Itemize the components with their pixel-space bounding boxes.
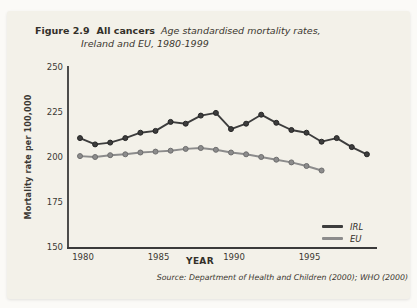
irl-data-point-marker (153, 128, 158, 133)
irl-data-point-marker (138, 130, 143, 135)
y-tick-label: 175 (47, 197, 63, 207)
eu-data-point-marker (244, 152, 249, 157)
eu-data-point-marker (78, 154, 83, 159)
eu-data-point-marker (153, 149, 158, 154)
eu-data-point-marker (304, 164, 309, 169)
chart-legend: IRL EU (322, 221, 392, 245)
irl-data-point-marker (334, 136, 339, 141)
irl-data-point-marker (274, 120, 279, 125)
eu-data-point-marker (108, 153, 113, 158)
eu-line-swatch (322, 237, 343, 240)
eu-data-point-marker (259, 155, 264, 160)
irl-data-point-marker (244, 121, 249, 126)
y-axis-title: Mortality rate per 100,000 (24, 67, 36, 247)
irl-data-point-marker (108, 140, 113, 145)
irl-data-point-marker (259, 112, 264, 117)
legend-label-irl: IRL (350, 222, 363, 232)
eu-data-point-marker (198, 146, 203, 151)
irl-data-point-marker (349, 145, 354, 150)
eu-data-point-marker (168, 148, 173, 153)
eu-data-point-marker (229, 150, 234, 155)
irl-series-line (80, 113, 367, 154)
irl-data-point-marker (213, 110, 218, 115)
eu-data-point-marker (213, 147, 218, 152)
irl-data-point-marker (198, 113, 203, 118)
source-note: Source: Department of Health and Childre… (108, 273, 408, 282)
eu-data-point-marker (289, 160, 294, 165)
y-tick-label: 225 (47, 107, 63, 117)
irl-data-point-marker (183, 121, 188, 126)
legend-item-irl: IRL (322, 221, 392, 232)
x-tick-label: 1980 (72, 252, 94, 262)
irl-data-point-marker (289, 128, 294, 133)
irl-data-point-marker (123, 136, 128, 141)
irl-data-point-marker (78, 136, 83, 141)
eu-data-point-marker (274, 157, 279, 162)
y-tick-label: 250 (47, 62, 63, 72)
y-tick-label: 200 (47, 152, 63, 162)
eu-series-line (80, 148, 322, 171)
x-tick-label: 1995 (299, 252, 321, 262)
irl-data-point-marker (229, 127, 234, 132)
irl-data-point-marker (93, 142, 98, 147)
y-tick-label: 150 (47, 242, 63, 252)
legend-label-eu: EU (350, 234, 362, 244)
irl-data-point-marker (304, 130, 309, 135)
irl-data-point-marker (168, 119, 173, 124)
eu-data-point-marker (183, 146, 188, 151)
eu-data-point-marker (123, 152, 128, 157)
irl-data-point-marker (364, 152, 369, 157)
irl-line-swatch (322, 225, 343, 228)
legend-item-eu: EU (322, 233, 392, 244)
eu-data-point-marker (138, 150, 143, 155)
eu-data-point-marker (93, 155, 98, 160)
eu-data-point-marker (319, 168, 324, 173)
x-axis-title: YEAR (160, 256, 240, 266)
irl-data-point-marker (319, 139, 324, 144)
